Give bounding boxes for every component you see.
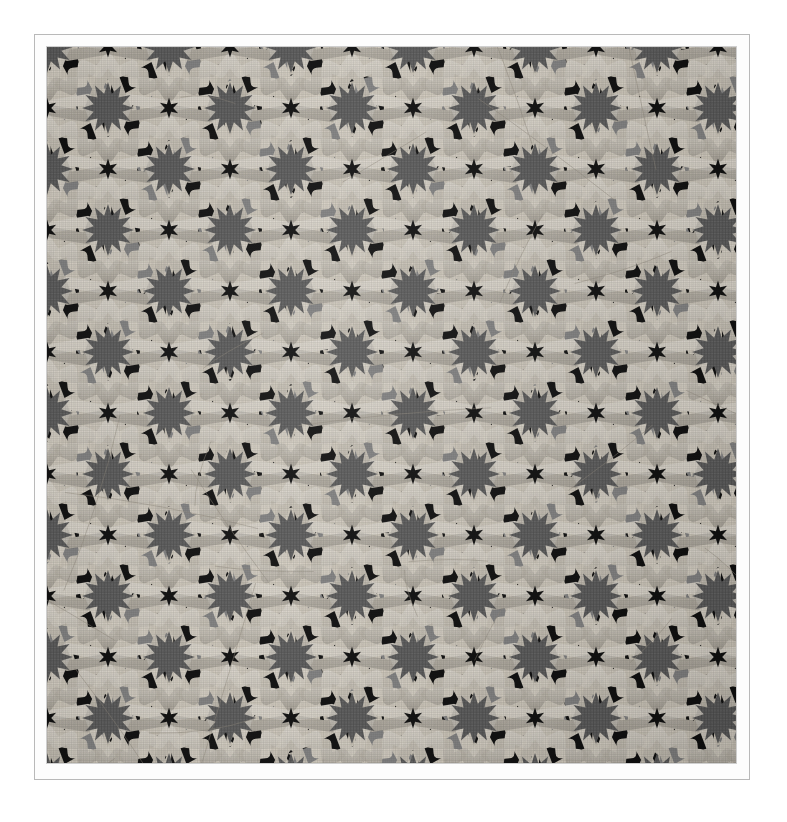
zellij-pattern-svg: [47, 47, 736, 763]
page-canvas: [0, 0, 787, 822]
pattern-root: [47, 47, 736, 763]
zellij-photograph: [47, 47, 736, 763]
